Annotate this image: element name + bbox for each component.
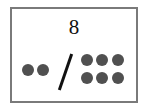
dot-icon [22, 64, 34, 76]
dot-icon [112, 72, 124, 84]
dot-icon [81, 72, 93, 84]
dot-icon [112, 54, 124, 66]
dot-icon [37, 64, 49, 76]
dot-icon [96, 54, 108, 66]
dot-icon [96, 72, 108, 84]
dot-icon [81, 54, 93, 66]
number-label: 8 [12, 16, 136, 38]
slash-separator [58, 54, 73, 91]
number-card: 8 [10, 7, 138, 103]
